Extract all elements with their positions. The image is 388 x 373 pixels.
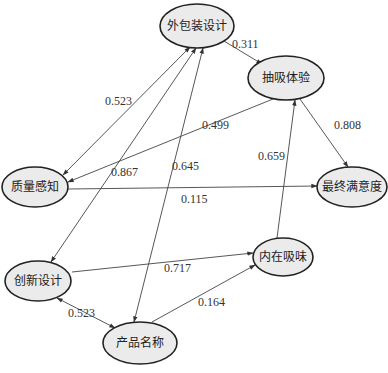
path-coefficient-label: 0.311 [232,37,259,51]
node-name: 产品名称 [103,322,177,364]
edge-innovation-to-taste [72,253,253,272]
path-coefficient-label: 0.659 [258,149,285,163]
path-coefficient-label: 0.523 [68,306,95,320]
node-label: 内在吸味 [259,250,307,264]
path-arrow [63,47,190,175]
node-smoking: 抽吸体验 [248,56,324,100]
path-arrow [277,100,295,238]
node-label: 创新设计 [14,273,62,288]
path-coefficient-label: 0.717 [164,261,191,275]
path-coefficient-label: 0.499 [202,118,229,132]
path-coefficient-label: 0.164 [198,295,225,309]
nodes-layer: 外包装设计抽吸体验质量感知最终满意度内在吸味创新设计产品名称 [2,4,387,364]
node-packaging: 外包装设计 [160,4,234,48]
path-coefficient-label: 0.867 [111,165,138,179]
path-coefficient-label: 0.645 [172,159,199,173]
edge-smoking-to-quality [68,99,273,182]
path-coefficient-label: 0.115 [181,192,208,206]
path-arrow [72,253,253,272]
node-quality: 质量感知 [2,167,68,207]
node-satisfaction: 最终满意度 [317,167,387,207]
node-label: 外包装设计 [167,19,227,33]
node-label: 最终满意度 [322,179,382,194]
path-coefficient-label: 0.523 [105,94,132,108]
path-arrow [51,48,196,262]
node-taste: 内在吸味 [253,238,313,276]
path-arrow [68,99,273,182]
node-label: 抽吸体验 [262,70,310,85]
node-label: 质量感知 [11,179,59,194]
path-arrow [300,99,348,167]
edge-taste-to-smoking [277,100,295,238]
node-innovation: 创新设计 [5,261,71,301]
path-coefficient-label: 0.808 [334,118,361,132]
edge-packaging-to-quality [63,47,190,175]
edge-quality-to-satisfaction [68,186,317,189]
node-label: 产品名称 [116,335,164,350]
path-diagram: 0.3110.5230.4990.8080.1150.8670.6450.659… [0,0,388,373]
edge-smoking-to-satisfaction [300,99,348,167]
edge-packaging-to-innovation [51,48,196,262]
path-arrow [68,186,317,189]
